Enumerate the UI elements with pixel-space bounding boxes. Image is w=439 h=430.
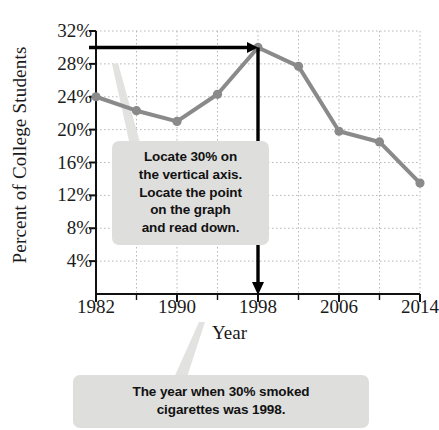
callout-lower: The year when 30% smokedcigarettes was 1…: [73, 375, 369, 428]
callout-lower-line: cigarettes was 1998.: [79, 401, 363, 419]
callout-upper-line: on the graph: [118, 201, 263, 219]
callout-upper-line: Locate the point: [118, 184, 263, 202]
callout-upper-line: Locate 30% on: [118, 148, 263, 166]
callout-upper-line: the vertical axis.: [118, 166, 263, 184]
callout-upper: Locate 30% onthe vertical axis.Locate th…: [112, 141, 269, 245]
callout-upper-line: and read down.: [118, 219, 263, 237]
callout-lower-line: The year when 30% smoked: [79, 383, 363, 401]
